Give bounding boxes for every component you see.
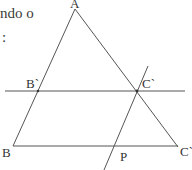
label-b-prime: B` [26, 77, 39, 90]
label-c: C` [180, 145, 192, 158]
text-fragment-1: ndo o [0, 6, 34, 21]
label-c-prime: C` [142, 77, 155, 90]
label-b: B [2, 146, 11, 159]
point-cprime-dot [136, 90, 139, 93]
label-p: P [120, 150, 127, 163]
geometry-figure: ndo o : A B` C` B P C` [0, 0, 192, 170]
label-a: A [70, 0, 79, 10]
segment-ab [13, 9, 75, 146]
text-fragment-2: : [2, 30, 6, 45]
segment-ac [75, 9, 178, 147]
